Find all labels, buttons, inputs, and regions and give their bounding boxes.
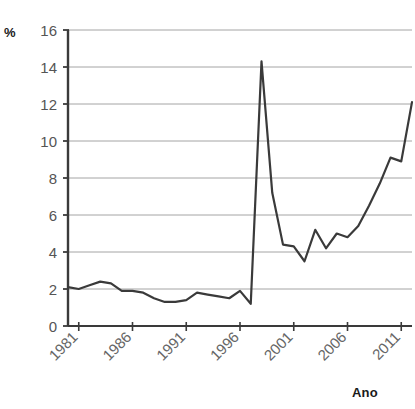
x-tick-label: 2011 bbox=[369, 328, 404, 363]
x-tick-label: 1996 bbox=[207, 328, 243, 364]
line-chart-plot: 0246810121416 19811986199119962001200620… bbox=[0, 0, 415, 409]
x-tick-label: 1986 bbox=[99, 328, 135, 364]
x-tick-label: 2001 bbox=[260, 328, 296, 364]
y-tick-label: 12 bbox=[40, 96, 57, 113]
y-tick-labels-group: 0246810121416 bbox=[40, 22, 57, 335]
y-tick-label: 10 bbox=[40, 133, 57, 150]
x-tick-labels-group: 1981198619911996200120062011 bbox=[45, 328, 403, 364]
y-tick-label: 6 bbox=[49, 207, 57, 224]
y-tick-label: 14 bbox=[40, 59, 57, 76]
chart-container: % Ano 0246810121416 19811986199119962001… bbox=[0, 0, 415, 409]
y-tick-label: 4 bbox=[49, 244, 57, 261]
y-tick-label: 2 bbox=[49, 281, 57, 298]
x-tick-label: 1991 bbox=[153, 328, 189, 364]
x-tick-label: 2006 bbox=[314, 328, 350, 364]
y-tick-label: 0 bbox=[49, 318, 57, 335]
data-series-line bbox=[68, 61, 412, 303]
y-tick-label: 16 bbox=[40, 22, 57, 39]
gridlines-group bbox=[68, 30, 412, 289]
y-tick-label: 8 bbox=[49, 170, 57, 187]
